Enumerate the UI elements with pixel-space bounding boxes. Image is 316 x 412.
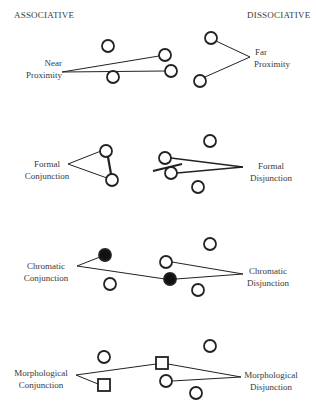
associative-header: ASSOCIATIVE xyxy=(14,10,74,20)
formal-disjunction-group xyxy=(153,135,243,193)
circle-shape xyxy=(159,49,171,61)
circle-shape xyxy=(98,351,110,363)
morphological-conjunction-label: Morphological Conjunction xyxy=(10,367,72,391)
morphological-disjunction-group xyxy=(156,340,241,399)
circle-shape xyxy=(160,256,172,268)
far-proximity-group xyxy=(194,32,250,87)
circle-shape xyxy=(204,238,216,250)
dissociative-header: DISSOCIATIVE xyxy=(247,10,310,20)
near-proximity-label: Near Proximity xyxy=(10,57,62,81)
circle-shape xyxy=(165,65,177,77)
chromatic-conjunction-label: Chromatic Conjunction xyxy=(20,260,72,284)
chromatic-disjunction-group xyxy=(160,238,243,296)
near-proximity-group xyxy=(62,40,177,83)
circle-shape xyxy=(159,152,171,164)
circle-shape xyxy=(204,135,216,147)
circle-shape xyxy=(204,340,216,352)
formal-conjunction-label: Formal Conjunction xyxy=(22,158,72,182)
square-shape xyxy=(98,379,110,391)
circle-shape xyxy=(194,75,206,87)
circle-shape xyxy=(102,40,114,52)
formal-disjunction-label: Formal Disjunction xyxy=(246,160,296,184)
circle-shape xyxy=(104,278,116,290)
circle-shape xyxy=(205,32,217,44)
circle-shape xyxy=(192,284,204,296)
square-shape xyxy=(156,357,168,369)
filled-circle-shape xyxy=(164,273,176,285)
chromatic-conjunction-group xyxy=(77,249,165,290)
morphological-disjunction-label: Morphological Disjunction xyxy=(240,369,302,393)
circle-shape xyxy=(100,145,112,157)
circle-shape xyxy=(160,375,172,387)
circle-shape xyxy=(165,167,177,179)
circle-shape xyxy=(192,181,204,193)
formal-conjunction-group xyxy=(68,145,118,186)
filled-circle-shape xyxy=(99,249,111,261)
circle-shape xyxy=(107,71,119,83)
morphological-conjunction-group xyxy=(76,351,156,391)
far-proximity-label: Far Proximity xyxy=(254,46,290,70)
chromatic-disjunction-label: Chromatic Disjunction xyxy=(242,265,294,289)
circle-shape xyxy=(190,387,202,399)
circle-shape xyxy=(106,174,118,186)
